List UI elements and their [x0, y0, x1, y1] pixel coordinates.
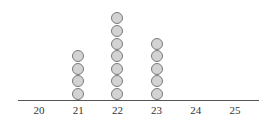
x-tick-label: 23 [145, 104, 169, 116]
data-point-dot [151, 50, 163, 62]
x-tick-label: 22 [105, 104, 129, 116]
x-tick-label: 20 [27, 104, 51, 116]
x-tick-label: 24 [184, 104, 208, 116]
data-point-dot [111, 50, 123, 62]
data-point-dot [72, 88, 84, 100]
data-point-dot [151, 63, 163, 75]
data-point-dot [151, 38, 163, 50]
data-point-dot [151, 88, 163, 100]
x-tick-label: 21 [66, 104, 90, 116]
data-point-dot [72, 75, 84, 87]
data-point-dot [72, 63, 84, 75]
data-point-dot [111, 25, 123, 37]
data-point-dot [111, 12, 123, 24]
x-tick-label: 25 [223, 104, 247, 116]
data-point-dot [72, 50, 84, 62]
data-point-dot [151, 75, 163, 87]
x-axis-line [18, 100, 259, 101]
data-point-dot [111, 75, 123, 87]
data-point-dot [111, 63, 123, 75]
data-point-dot [111, 38, 123, 50]
dot-plot: 202122232425 [0, 0, 272, 122]
data-point-dot [111, 88, 123, 100]
